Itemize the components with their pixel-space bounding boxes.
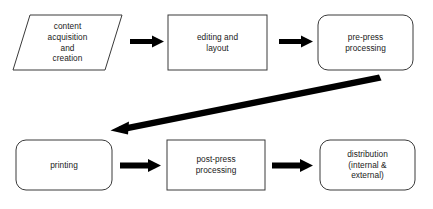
connector-printing-to-postpress: [120, 159, 161, 172]
connector-postpress-to-distribution: [272, 159, 313, 172]
node-shape-content-acquisition[interactable]: [13, 15, 122, 70]
node-shape-printing[interactable]: [16, 140, 112, 190]
connector-content-to-editing: [130, 36, 164, 48]
node-shape-editing-layout[interactable]: [168, 15, 267, 70]
connector-editing-to-prepress: [279, 36, 313, 48]
node-shape-distribution[interactable]: [320, 140, 415, 190]
flowchart-canvas: content acquisition and creation editing…: [0, 0, 433, 209]
node-shape-post-press-processing[interactable]: [167, 140, 265, 190]
node-shape-pre-press-processing[interactable]: [318, 15, 413, 70]
flowchart-graphics: [0, 0, 433, 209]
connector-prepress-to-printing: [111, 75, 382, 135]
